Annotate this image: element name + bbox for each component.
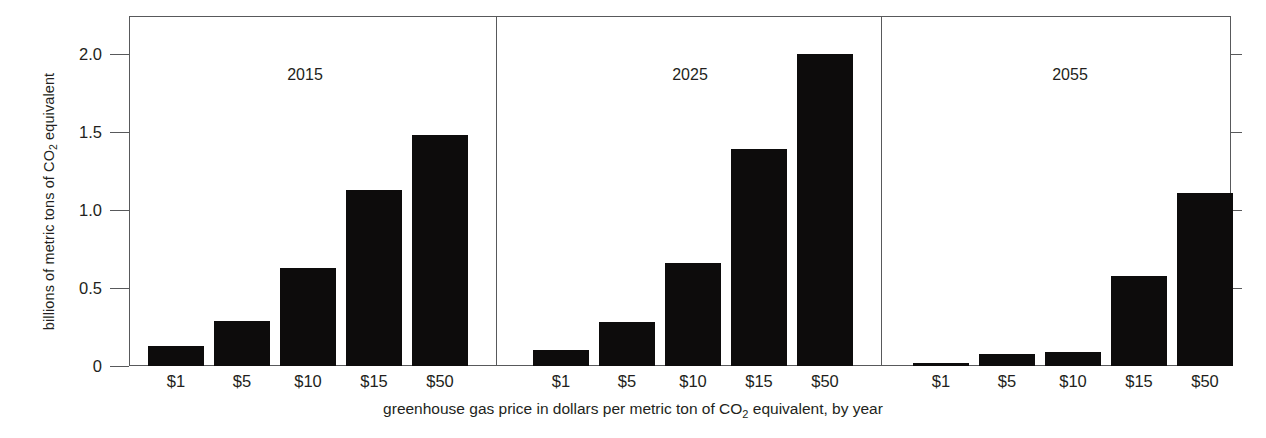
- bar-2055-10: [1045, 352, 1101, 366]
- y-tick-label-1-5: 1.5: [40, 123, 102, 142]
- x-tick-label-2025-5: $5: [618, 372, 636, 391]
- y-tick-mark-right-1-5: [1231, 132, 1242, 133]
- bar-2025-50: [797, 54, 853, 366]
- bar-2055-1: [913, 363, 969, 366]
- y-tick-mark-2-0: [110, 54, 129, 55]
- bar-2025-10: [665, 263, 721, 366]
- y-tick-mark-right-2-0: [1231, 54, 1242, 55]
- panel-title-2055: 2055: [1052, 66, 1088, 84]
- x-tick-label-2055-10: $10: [1059, 372, 1087, 391]
- y-tick-label-2-0: 2.0: [40, 45, 102, 64]
- x-axis-caption-prefix: greenhouse gas price in dollars per metr…: [383, 400, 742, 417]
- x-tick-label-2055-1: $1: [932, 372, 950, 391]
- x-tick-label-2015-1: $1: [167, 372, 185, 391]
- y-tick-mark-1-5: [110, 132, 129, 133]
- bar-2015-1: [148, 346, 204, 366]
- x-tick-label-2055-5: $5: [998, 372, 1016, 391]
- y-tick-mark-1-0: [110, 210, 129, 211]
- x-tick-label-2015-15: $15: [360, 372, 388, 391]
- panel-title-2015: 2015: [287, 66, 323, 84]
- x-tick-label-2015-5: $5: [233, 372, 251, 391]
- bar-2015-5: [214, 321, 270, 366]
- chart-root: billions of metric tons of CO2 equivalen…: [0, 0, 1266, 438]
- y-tick-label-1-0: 1.0: [40, 201, 102, 220]
- panel-title-2025: 2025: [672, 66, 708, 84]
- y-axis-title-subscript: 2: [47, 144, 59, 150]
- x-axis-caption: greenhouse gas price in dollars per metr…: [0, 400, 1266, 420]
- x-tick-label-2025-50: $50: [811, 372, 839, 391]
- bar-2015-50: [412, 135, 468, 366]
- y-tick-label-0-5: 0.5: [40, 279, 102, 298]
- bar-2055-15: [1111, 276, 1167, 366]
- bar-2015-15: [346, 190, 402, 366]
- panel-divider-1: [496, 16, 497, 366]
- bar-2025-15: [731, 149, 787, 366]
- bar-2025-5: [599, 322, 655, 366]
- x-tick-label-2055-50: $50: [1191, 372, 1219, 391]
- x-tick-label-2015-50: $50: [426, 372, 454, 391]
- bar-2025-1: [533, 350, 589, 366]
- x-axis-caption-suffix: equivalent, by year: [748, 400, 882, 417]
- y-axis-title-prefix: billions of metric tons of CO: [41, 150, 57, 330]
- x-tick-label-2055-15: $15: [1125, 372, 1153, 391]
- bar-2055-50: [1177, 193, 1233, 366]
- y-tick-label-0: 0: [40, 357, 102, 376]
- panel-divider-2: [881, 16, 882, 366]
- x-tick-label-2025-1: $1: [552, 372, 570, 391]
- bar-2015-10: [280, 268, 336, 366]
- x-tick-label-2025-15: $15: [745, 372, 773, 391]
- x-tick-label-2015-10: $10: [294, 372, 322, 391]
- y-tick-mark-0-5: [110, 288, 129, 289]
- bar-2055-5: [979, 354, 1035, 366]
- x-tick-label-2025-10: $10: [679, 372, 707, 391]
- y-tick-mark-0: [110, 366, 129, 367]
